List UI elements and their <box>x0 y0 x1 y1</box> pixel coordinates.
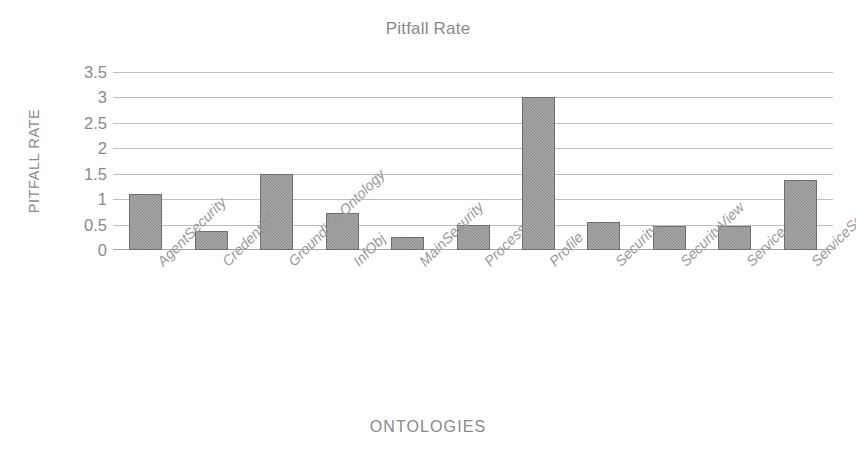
y-axis-tick-label: 1 <box>53 191 107 208</box>
x-axis-tick-label-text: AgentSecurity <box>154 258 165 269</box>
x-axis-tick-label-text: Credential <box>219 258 230 269</box>
x-axis-tick-labels: AgentSecurityCredentialGrounding Ontolog… <box>113 250 833 410</box>
gridline <box>113 97 833 98</box>
x-axis-tick-label-text: Process <box>481 258 492 269</box>
x-axis-tick-label-text: InfObj <box>350 258 361 269</box>
x-axis-tick-label: AgentSecurity <box>154 258 165 269</box>
gridline <box>113 72 833 73</box>
x-axis-tick-label: MainSecurity <box>416 258 427 269</box>
x-axis-tick-label: Process <box>481 258 492 269</box>
y-axis-tick-label: 3.5 <box>53 64 107 81</box>
y-axis-tick-label: 2.5 <box>53 115 107 132</box>
y-axis-tick-label: 2 <box>53 140 107 157</box>
y-axis-tick-labels: 3.532.521.510.50 <box>47 72 107 250</box>
y-axis-tick-label: 0 <box>53 242 107 259</box>
x-axis-tick-label: InfObj <box>350 258 361 269</box>
x-axis-tick-label: SecurityView <box>677 258 688 269</box>
x-axis-tick-label: Security <box>612 258 623 269</box>
y-axis-tick-label: 3 <box>53 89 107 106</box>
x-axis-tick-label-text: MainSecurity <box>416 258 427 269</box>
x-axis-tick-label: ServiceSecurity <box>808 258 819 269</box>
y-axis-title: PITFALL RATE <box>22 72 46 250</box>
x-axis-tick-label-text: Grounding Ontology <box>285 258 296 269</box>
gridline <box>113 174 833 175</box>
y-axis-title-text: PITFALL RATE <box>26 109 42 214</box>
x-axis-tick-label-text: ServiceSecurity <box>808 258 819 269</box>
y-axis-tick-label: 0.5 <box>53 217 107 234</box>
pitfall-rate-chart: Pitfall Rate PITFALL RATE 3.532.521.510.… <box>0 0 856 469</box>
y-axis-tick-label: 1.5 <box>53 166 107 183</box>
x-axis-tick-label: Grounding Ontology <box>285 258 296 269</box>
x-axis-tick-label: Credential <box>219 258 230 269</box>
x-axis-tick-label: Service <box>743 258 754 269</box>
x-axis-tick-label-text: Service <box>743 258 754 269</box>
bar <box>587 222 620 250</box>
x-axis-tick-label-text: SecurityView <box>677 258 688 269</box>
bar <box>129 194 162 250</box>
bar <box>522 97 555 250</box>
gridline <box>113 123 833 124</box>
bar <box>784 180 817 250</box>
x-axis-title: ONTOLOGIES <box>0 418 856 436</box>
x-axis-tick-label: Profile <box>546 258 557 269</box>
gridline <box>113 148 833 149</box>
x-axis-tick-label-text: Profile <box>546 258 557 269</box>
x-axis-tick-label-text: Security <box>612 258 623 269</box>
chart-title: Pitfall Rate <box>0 19 856 39</box>
bar <box>391 237 424 250</box>
